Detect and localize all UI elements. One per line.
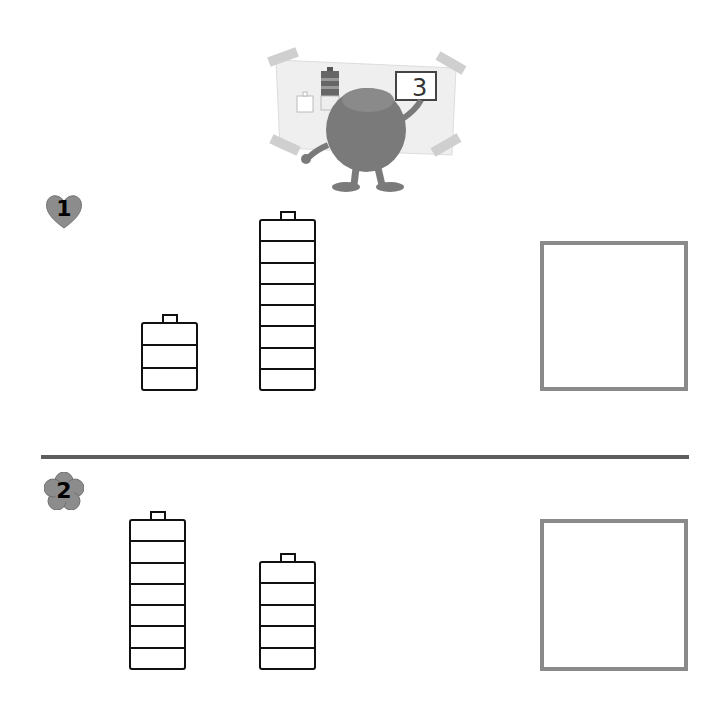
svg-text:3: 3 — [412, 74, 427, 102]
battery-body — [141, 322, 198, 391]
section-divider — [41, 455, 689, 459]
answer-box-1[interactable] — [540, 241, 688, 391]
battery-7-cells — [129, 511, 186, 670]
problem-2-badge: 2 — [44, 472, 84, 510]
answer-box-2[interactable] — [540, 519, 688, 671]
battery-body — [259, 219, 316, 391]
battery-5-cells — [259, 553, 316, 670]
monster-whiteboard-icon: 3 — [266, 40, 466, 195]
problem-number: 1 — [44, 196, 84, 221]
problem-number: 2 — [44, 478, 84, 503]
battery-8-cells — [259, 211, 316, 391]
battery-body — [129, 519, 186, 670]
monster-illustration: 3 — [266, 40, 466, 195]
battery-body — [259, 561, 316, 670]
problem-1-badge: 1 — [44, 192, 84, 230]
battery-3-cells — [141, 314, 198, 391]
